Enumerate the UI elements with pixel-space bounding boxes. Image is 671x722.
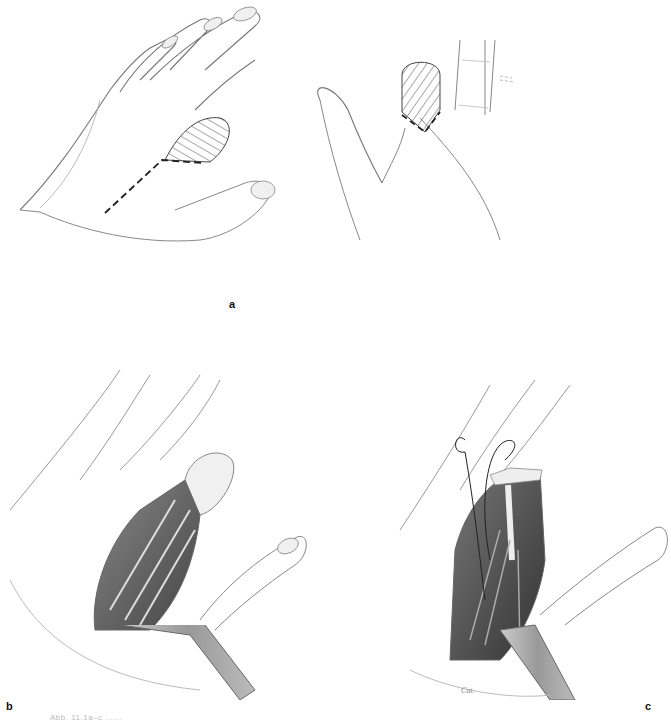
surgical-exposure-illustration [0,360,330,700]
artist-signature: Cut. [461,686,475,695]
figure-caption: Abb. 11.1a–c …… [50,713,122,722]
panel-a-palmar-hand [300,0,530,260]
dorsal-hand-illustration [0,0,300,250]
panel-c-tendon-transfer [390,360,671,700]
tendon-transfer-illustration [390,360,671,700]
panel-label-b: b [6,700,13,712]
panel-label-a: a [229,298,235,310]
palmar-hand-illustration [300,0,530,260]
panel-label-c: c [645,700,651,712]
panel-a-dorsal-hand [0,0,300,250]
panel-b-surgical-exposure [0,360,330,700]
